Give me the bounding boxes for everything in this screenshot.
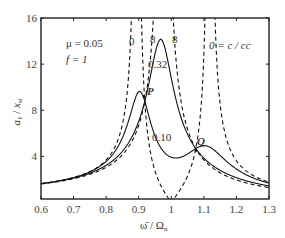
y-tick-label: 16 — [26, 12, 38, 24]
fixed-point-p — [143, 95, 146, 98]
svg-text:a1 / xst: a1 / xst — [10, 98, 24, 125]
svg-text:ω̄ / Ωn: ω̄ / Ωn — [140, 219, 168, 233]
label-0-32: 0.32 — [148, 58, 167, 70]
y-tick-label: 8 — [32, 104, 38, 116]
mu-annotation: μ = 0.05 — [66, 37, 103, 49]
x-tick-label: 1.2 — [230, 203, 244, 215]
damping-ratio-label: 0 = c / cc — [209, 39, 251, 51]
x-tick-label: 1 — [169, 203, 175, 215]
x-tick-label: 0.6 — [34, 203, 48, 215]
x-axis-title: ω̄ / Ωn — [140, 219, 168, 233]
y-tick-label: 4 — [32, 150, 38, 162]
f-annotation: f = 1 — [66, 53, 87, 65]
label-inf-2: 8 — [172, 33, 178, 45]
point-p-label: P — [147, 85, 154, 97]
curves-group — [41, 0, 269, 202]
series-line-inf — [41, 0, 269, 188]
y-tick-label: 12 — [26, 58, 37, 70]
y-axis-title: a1 / xst — [10, 98, 24, 125]
label-inf-1: 8 — [150, 33, 156, 45]
x-tick-label: 0.8 — [99, 203, 113, 215]
x-tick-label: 1.3 — [262, 203, 276, 215]
fixed-point-q — [195, 149, 198, 152]
series-line-0 — [41, 0, 269, 202]
label-0-10: 0.10 — [152, 131, 172, 143]
x-tick-label: 0.9 — [132, 203, 146, 215]
label-zero: 0 — [129, 35, 135, 47]
chart: 0.60.70.80.911.11.21.3 481216 μ = 0.05 f… — [0, 0, 285, 238]
x-tick-label: 0.7 — [67, 203, 81, 215]
x-tick-label: 1.1 — [197, 203, 211, 215]
point-q-label: Q — [197, 135, 205, 147]
